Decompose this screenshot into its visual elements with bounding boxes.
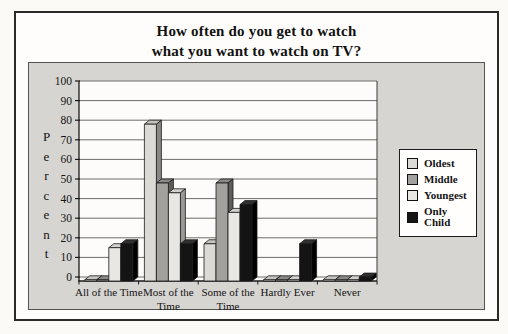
y-tick-label: 90 — [61, 95, 73, 107]
bar-front-face — [288, 280, 300, 281]
bar-front-face — [240, 205, 252, 281]
legend-item-middle: Middle — [407, 174, 474, 185]
bar-front-face — [359, 277, 371, 281]
legend: OldestMiddleYoungestOnly Child — [399, 149, 477, 237]
bar-front-face — [156, 183, 168, 281]
chart-title: How often do you get to watch what you w… — [16, 22, 497, 61]
bar-front-face — [347, 280, 359, 281]
bar-front-face — [121, 244, 133, 281]
chart-panel: 0102030405060708090100 Percent OldestMid… — [28, 62, 485, 310]
category-label-hardly-ever: Hardly Ever — [261, 286, 315, 300]
legend-swatch-oldest — [407, 158, 418, 169]
y-tick-label: 60 — [61, 153, 73, 165]
bar-front-face — [335, 280, 347, 281]
legend-swatch-youngest — [407, 190, 418, 201]
legend-label: Only Child — [424, 206, 474, 228]
bar-front-face — [109, 248, 121, 281]
bar-only-child-most-of-the-time — [180, 240, 197, 281]
bar-only-child-some-of-the-time — [240, 201, 257, 281]
legend-item-youngest: Youngest — [407, 190, 474, 201]
bar-front-face — [144, 124, 156, 281]
y-tick-label: 10 — [61, 251, 73, 263]
bar-only-child-all-of-the-time — [121, 240, 138, 281]
legend-swatch-only-child — [407, 212, 418, 223]
y-tick-label: 70 — [61, 134, 73, 146]
bar-front-face — [300, 244, 312, 281]
bar-front-face — [216, 183, 228, 281]
y-tick-label: 20 — [61, 232, 73, 244]
bar-side-face — [192, 240, 197, 281]
chart-title-line-1: How often do you get to watch — [16, 22, 497, 42]
bar-front-face — [168, 193, 180, 281]
y-tick-label: 100 — [55, 75, 73, 87]
y-axis-title: Percent — [38, 129, 54, 266]
bar-front-face — [204, 244, 216, 281]
bar-front-face — [323, 280, 335, 281]
bar-side-face — [312, 240, 317, 281]
legend-label: Youngest — [424, 190, 467, 201]
bar-side-face — [252, 201, 257, 281]
bar-front-face — [180, 244, 192, 281]
category-label-some-of-the-time: Some of theTime — [201, 286, 254, 314]
category-label-most-of-the-time: Most of theTime — [143, 286, 194, 314]
legend-item-oldest: Oldest — [407, 158, 474, 169]
legend-label: Oldest — [424, 158, 455, 169]
y-tick-label: 0 — [66, 271, 72, 283]
y-tick-label: 80 — [61, 114, 73, 126]
legend-label: Middle — [424, 174, 458, 185]
legend-swatch-middle — [407, 174, 418, 185]
bar-front-face — [228, 212, 240, 281]
figure-frame: How often do you get to watch what you w… — [14, 11, 499, 321]
category-label-never: Never — [334, 286, 361, 300]
y-tick-label: 30 — [61, 212, 73, 224]
bar-front-face — [85, 280, 97, 281]
category-label-all-of-the-time: All of the Time — [75, 286, 143, 300]
chart-title-line-2: what you want to watch on TV? — [16, 42, 497, 62]
y-tick-label: 50 — [61, 173, 73, 185]
y-tick-label: 40 — [61, 193, 73, 205]
bar-front-face — [264, 280, 276, 281]
bar-front-face — [276, 280, 288, 281]
bar-front-face — [97, 280, 109, 281]
bar-only-child-hardly-ever — [300, 240, 317, 281]
bar-side-face — [133, 240, 138, 281]
legend-item-only-child: Only Child — [407, 206, 474, 228]
